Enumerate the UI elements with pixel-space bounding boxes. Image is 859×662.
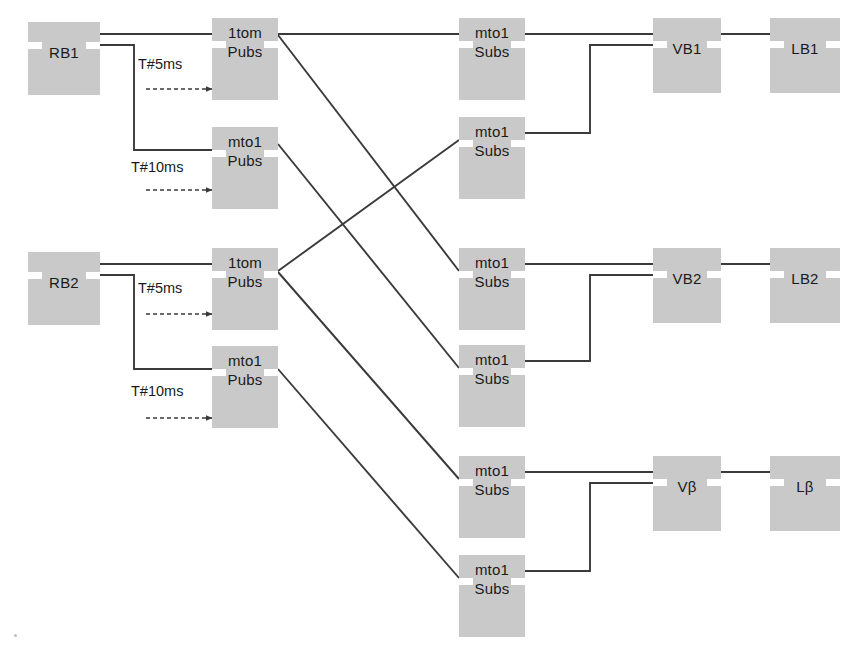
block-sub1[interactable]: mto1Subs bbox=[459, 18, 525, 100]
input-notch bbox=[459, 41, 473, 48]
output-notch bbox=[826, 271, 840, 278]
output-notch bbox=[264, 150, 278, 157]
output-notch bbox=[86, 42, 100, 49]
block-sub3[interactable]: mto1Subs bbox=[459, 248, 525, 330]
block-pubmto1_1[interactable]: mto1Pubs bbox=[212, 127, 278, 209]
input-notch bbox=[459, 271, 473, 278]
diagram-canvas: RB1RB21tomPubsmto1Pubs1tomPubsmto1Pubsmt… bbox=[0, 0, 859, 662]
block-rb2[interactable]: RB2 bbox=[28, 252, 100, 325]
wire-1tom1-to-sub3 bbox=[278, 35, 459, 271]
block-label-primary: mto1 bbox=[459, 254, 525, 271]
block-label-primary: mto1 bbox=[459, 24, 525, 41]
input-notch bbox=[212, 271, 226, 278]
output-notch bbox=[826, 41, 840, 48]
block-lbeta[interactable]: Lβ bbox=[770, 456, 840, 531]
output-notch bbox=[826, 479, 840, 486]
block-label-primary: mto1 bbox=[459, 462, 525, 479]
block-vb1[interactable]: VB1 bbox=[653, 18, 721, 93]
timer-arrows bbox=[146, 89, 212, 418]
block-sub6[interactable]: mto1Subs bbox=[459, 555, 525, 637]
block-rb1[interactable]: RB1 bbox=[28, 22, 100, 95]
scan-speck bbox=[14, 634, 17, 637]
input-notch bbox=[212, 41, 226, 48]
input-notch bbox=[212, 369, 226, 376]
block-pubmto1_2[interactable]: mto1Pubs bbox=[212, 346, 278, 428]
annotation-t10ms_2: T#10ms bbox=[131, 383, 183, 399]
input-notch bbox=[653, 271, 667, 278]
wire-sub2-to-vb1 bbox=[525, 45, 653, 133]
input-notch bbox=[459, 479, 473, 486]
block-sub5[interactable]: mto1Subs bbox=[459, 456, 525, 538]
output-notch bbox=[86, 272, 100, 279]
input-notch bbox=[212, 150, 226, 157]
wire-1tom2-to-sub5 bbox=[278, 272, 459, 479]
output-notch bbox=[511, 578, 525, 585]
output-notch bbox=[707, 479, 721, 486]
wire-mto1p2-to-sub6 bbox=[278, 369, 459, 578]
input-notch bbox=[459, 578, 473, 585]
output-notch bbox=[511, 368, 525, 375]
wire-sub6-to-vbeta bbox=[525, 483, 653, 571]
block-label-primary: mto1 bbox=[459, 351, 525, 368]
block-label-primary: mto1 bbox=[459, 561, 525, 578]
output-notch bbox=[707, 271, 721, 278]
wire-sub4-to-vb2 bbox=[525, 275, 653, 361]
input-notch bbox=[653, 41, 667, 48]
block-sub4[interactable]: mto1Subs bbox=[459, 345, 525, 427]
input-notch bbox=[770, 479, 784, 486]
annotation-t5ms_2: T#5ms bbox=[138, 280, 182, 296]
input-notch bbox=[28, 272, 42, 279]
output-notch bbox=[264, 369, 278, 376]
input-notch bbox=[770, 271, 784, 278]
output-notch bbox=[264, 41, 278, 48]
input-notch bbox=[28, 42, 42, 49]
output-notch bbox=[511, 140, 525, 147]
output-notch bbox=[511, 271, 525, 278]
output-notch bbox=[511, 479, 525, 486]
output-notch bbox=[707, 41, 721, 48]
wire-mto1p1-to-sub4 bbox=[278, 144, 459, 368]
block-label-primary: 1tom bbox=[212, 24, 278, 41]
wire-layer bbox=[0, 0, 859, 662]
block-vbeta[interactable]: Vβ bbox=[653, 456, 721, 531]
annotation-t10ms_1: T#10ms bbox=[131, 159, 183, 175]
block-label-primary: mto1 bbox=[212, 352, 278, 369]
input-notch bbox=[653, 479, 667, 486]
block-pub1tom_2[interactable]: 1tomPubs bbox=[212, 248, 278, 330]
input-notch bbox=[770, 41, 784, 48]
block-label-primary: mto1 bbox=[212, 133, 278, 150]
output-notch bbox=[264, 271, 278, 278]
block-sub2[interactable]: mto1Subs bbox=[459, 117, 525, 199]
input-notch bbox=[459, 140, 473, 147]
block-lb1[interactable]: LB1 bbox=[770, 18, 840, 93]
wire-1tom2-to-sub2 bbox=[278, 140, 459, 271]
annotation-t5ms_1: T#5ms bbox=[138, 56, 182, 72]
block-label-primary: mto1 bbox=[459, 123, 525, 140]
output-notch bbox=[511, 41, 525, 48]
block-lb2[interactable]: LB2 bbox=[770, 248, 840, 323]
block-vb2[interactable]: VB2 bbox=[653, 248, 721, 323]
input-notch bbox=[459, 368, 473, 375]
block-label-primary: 1tom bbox=[212, 254, 278, 271]
block-pub1tom_1[interactable]: 1tomPubs bbox=[212, 18, 278, 100]
